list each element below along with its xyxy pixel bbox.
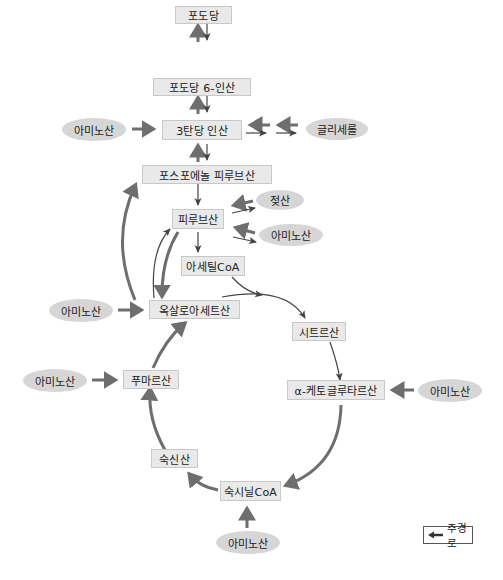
node-alpha-ketoglutarate: α-케토글루타르산 <box>287 380 385 400</box>
node-acetyl-coa: 아세틸CoA <box>181 256 245 276</box>
left-arrow-icon <box>428 531 444 539</box>
node-pyruvate: 피루브산 <box>172 209 224 229</box>
node-triose-phosphate: 3탄당 인산 <box>162 120 242 140</box>
node-citrate: 시트르산 <box>292 322 346 341</box>
input-lactate: 젖산 <box>256 190 304 210</box>
input-amino-acid-succinyl-coa: 아미노산 <box>216 531 280 554</box>
input-amino-acid-oxaloacetate: 아미노산 <box>49 299 113 322</box>
legend-label: 주경로 <box>447 520 468 550</box>
node-fumarate: 푸마르산 <box>123 370 179 389</box>
node-glucose-6-phosphate: 포도당 6-인산 <box>153 78 251 96</box>
node-succinyl-coa: 숙시닐CoA <box>220 481 281 501</box>
node-oxaloacetate: 옥살로아세트산 <box>149 300 240 319</box>
legend-main-pathway: 주경로 <box>423 526 473 544</box>
input-glycerol: 글리세롤 <box>306 118 368 140</box>
node-glucose: 포도당 <box>175 6 232 24</box>
node-phosphoenolpyruvate: 포스포에놀 피루브산 <box>142 165 272 184</box>
input-amino-acid-fumarate: 아미노산 <box>23 369 87 392</box>
input-amino-acid-ketoglutarate: 아미노산 <box>418 379 482 402</box>
input-amino-acid-pyruvate: 아미노산 <box>259 224 323 246</box>
arrow-oaa-to-pep <box>123 186 136 300</box>
input-amino-acid-triose: 아미노산 <box>62 118 126 141</box>
node-succinate: 숙신산 <box>151 449 198 468</box>
